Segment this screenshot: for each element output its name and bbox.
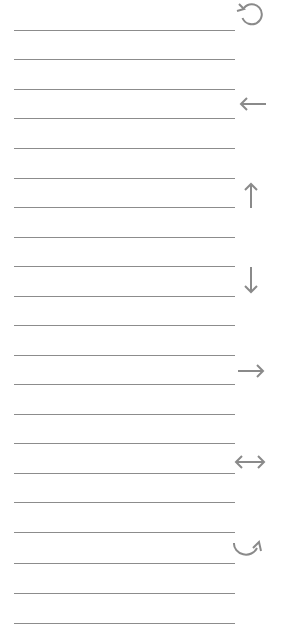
ruled-line — [14, 563, 235, 564]
ruled-line — [14, 325, 235, 326]
ruled-line — [14, 207, 235, 208]
ruled-line — [14, 355, 235, 356]
ruled-line — [14, 623, 235, 624]
ruled-line — [14, 59, 235, 60]
ruled-line — [14, 593, 235, 594]
ruled-line — [14, 237, 235, 238]
arrow-up-icon[interactable] — [243, 181, 259, 209]
ruled-line — [14, 296, 235, 297]
ruled-line — [14, 502, 235, 503]
ruled-line — [14, 473, 235, 474]
ruled-line — [14, 89, 235, 90]
ruled-line — [14, 384, 235, 385]
arrow-down-icon[interactable] — [243, 266, 259, 295]
ruled-line — [14, 30, 235, 31]
ruled-line — [14, 266, 235, 267]
ruled-line — [14, 414, 235, 415]
arrow-right-icon[interactable] — [237, 363, 267, 379]
ruled-line — [14, 118, 235, 119]
ruled-line — [14, 148, 235, 149]
ruled-line — [14, 178, 235, 179]
arrow-left-icon[interactable] — [238, 96, 268, 112]
rotate-clockwise-icon[interactable] — [231, 538, 265, 562]
ruled-line — [14, 532, 235, 533]
ruled-line — [14, 443, 235, 444]
arrow-left-right-icon[interactable] — [233, 454, 267, 470]
rotate-counterclockwise-icon[interactable] — [235, 1, 265, 27]
